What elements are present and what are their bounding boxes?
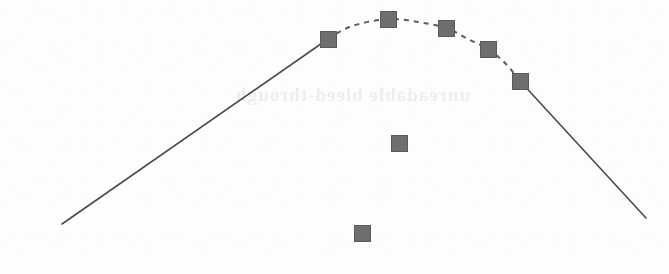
data-point-marker-m6 [391,135,407,151]
figure-canvas: unreadable bleed-through [0,0,669,274]
data-point-marker-m2 [380,11,396,27]
data-point-marker-m5 [512,73,528,89]
data-point-marker-m7 [354,225,370,241]
data-point-marker-m4 [480,41,496,57]
plot-area [0,0,669,274]
data-point-marker-m1 [320,31,336,47]
series-layer [62,19,646,224]
series-falling-solid-segment [520,81,646,218]
marker-layer [320,11,528,241]
data-point-marker-m3 [438,20,454,36]
series-rising-solid-segment [62,39,328,224]
